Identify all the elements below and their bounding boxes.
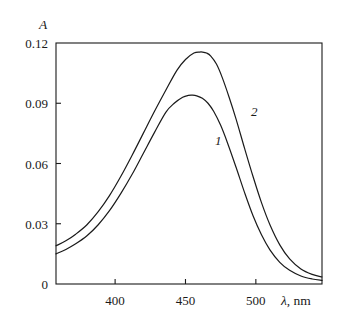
- spectrum-curve-1: [56, 95, 322, 280]
- curve-label-2: 2: [251, 105, 258, 118]
- x-tick-label: 400: [91, 294, 139, 307]
- x-axis-ticks: [115, 279, 256, 284]
- x-axis-title-units: , nm: [287, 293, 311, 308]
- y-tick-label: 0.09: [0, 97, 48, 110]
- plot-canvas: [0, 0, 339, 322]
- y-axis-title: A: [39, 18, 47, 32]
- x-axis-title: λ, nm: [281, 294, 311, 308]
- y-tick-label: 0.03: [0, 218, 48, 231]
- spectrum-curve-2: [56, 52, 322, 277]
- x-tick-label: 500: [232, 294, 280, 307]
- y-axis-ticks: [56, 103, 61, 224]
- absorption-spectrum-figure: A λ, nm 1 2 00.030.060.090.12400450500: [0, 0, 339, 322]
- y-tick-label: 0.06: [0, 158, 48, 171]
- y-tick-label: 0: [0, 278, 48, 291]
- x-tick-label: 450: [161, 294, 209, 307]
- curve-label-1: 1: [215, 134, 222, 147]
- y-tick-label: 0.12: [0, 37, 48, 50]
- spectrum-curves: [56, 52, 322, 280]
